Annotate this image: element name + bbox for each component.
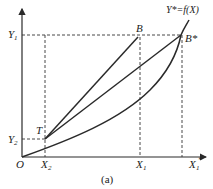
label-X1-star: X 1 * <box>188 156 202 172</box>
line-T-Bstar <box>45 35 181 139</box>
svg-text:*: * <box>198 156 202 165</box>
label-X1: X 1 <box>135 158 147 172</box>
label-origin: O <box>16 158 24 170</box>
svg-text:2: 2 <box>14 139 18 147</box>
label-X2: X 2 <box>40 158 52 172</box>
label-Y1: Y 1 <box>8 28 18 42</box>
svg-text:2: 2 <box>48 164 52 172</box>
svg-text:1: 1 <box>14 34 18 42</box>
svg-text:1: 1 <box>143 164 147 172</box>
label-B: B <box>136 22 143 34</box>
line-T-B <box>45 37 138 139</box>
caption: (a) <box>101 173 114 186</box>
diagram-canvas: O T B B* Y*=f(X) Y 1 Y 2 X 2 X 1 X 1 * (… <box>0 0 213 189</box>
label-Y2: Y 2 <box>8 133 18 147</box>
label-B-star: B* <box>185 32 198 44</box>
label-T: T <box>36 124 43 136</box>
label-curve: Y*=f(X) <box>166 4 200 16</box>
svg-text:1: 1 <box>196 164 200 172</box>
